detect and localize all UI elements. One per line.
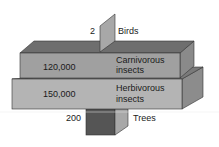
birds-count: 2 xyxy=(90,27,95,36)
carnivorous-label-line2: insects xyxy=(116,66,144,75)
herbivorous-label-line1: Herbivorous xyxy=(116,84,165,93)
herbivorous-label-line2: insects xyxy=(116,95,144,104)
carnivorous-count: 120,000 xyxy=(43,63,76,72)
birds-label: Birds xyxy=(118,27,139,36)
herbivorous-count: 150,000 xyxy=(43,90,76,99)
pyramid-diagram xyxy=(0,0,219,147)
carnivorous-label-line1: Carnivorous xyxy=(116,56,165,65)
trees-label: Trees xyxy=(133,114,156,123)
trees-block xyxy=(86,109,128,135)
trees-count: 200 xyxy=(66,114,81,123)
